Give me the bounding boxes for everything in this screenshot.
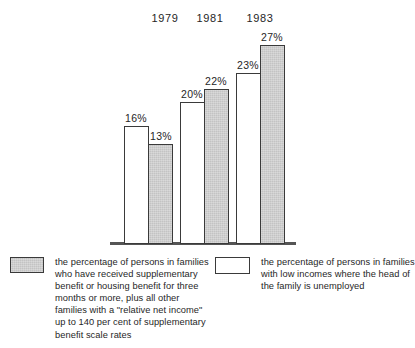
bar-1983-shaded [260,45,285,244]
plot-area: 16% 13% 20% 22% 23% 27% [0,0,413,248]
legend-label-shaded: the percentage of persons in families wh… [55,256,209,341]
legend-shaded-line-5: families with a "relative net income" [55,304,209,316]
legend-shaded-line-1: the percentage of persons in families [55,256,209,268]
bar-value-1981-open: 20% [181,88,203,100]
legend-label-open: the percentage of persons in families wi… [261,256,415,292]
legend-swatch-open-icon [215,257,250,274]
bar-value-1981-shaded: 22% [205,75,227,87]
legend-entry-open: the percentage of persons in families wi… [215,256,415,292]
legend-open-line-2: with low incomes where the head of [261,268,415,280]
bar-1983-open [236,73,261,244]
legend-open-line-1: the percentage of persons in families [261,256,415,268]
legend-entry-shaded: the percentage of persons in families wh… [10,256,209,341]
legend-swatch-shaded-icon [10,257,44,273]
bar-value-1983-open: 23% [237,59,259,71]
legend-shaded-line-3: benefit or housing benefit for three [55,280,209,292]
legend-shaded-line-7: benefit scale rates [55,329,209,341]
bar-value-1979-shaded: 13% [150,130,172,142]
bar-1979-open [124,126,149,244]
legend-shaded-line-6: up to 140 per cent of supplementary [55,316,209,328]
legend-shaded-line-2: who have received supplementary [55,268,209,280]
bar-1981-open [180,102,205,244]
chart-legend: the percentage of persons in families wh… [0,252,413,348]
bar-1979-shaded [148,144,173,244]
bar-1981-shaded [204,89,229,244]
legend-shaded-line-4: months or more, plus all other [55,292,209,304]
legend-open-line-3: the family is unemployed [261,280,415,292]
bar-value-1979-open: 16% [125,112,147,124]
bar-value-1983-shaded: 27% [261,31,283,43]
